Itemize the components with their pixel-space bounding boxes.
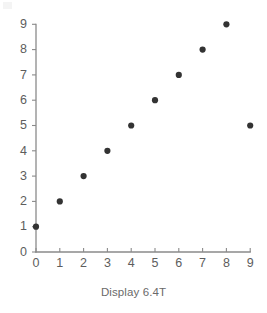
x-axis-tick-label: 2 bbox=[80, 256, 87, 270]
y-axis-tick-label: 0 bbox=[20, 245, 27, 259]
data-point bbox=[247, 122, 253, 128]
data-point bbox=[200, 47, 206, 53]
data-point bbox=[81, 173, 87, 179]
x-axis-group: 0123456789 bbox=[33, 248, 254, 270]
y-axis-group: 0123456789 bbox=[20, 17, 36, 259]
figure-caption: Display 6.4T bbox=[0, 286, 267, 298]
x-axis-tick-label: 0 bbox=[33, 256, 40, 270]
y-axis-tick-label: 7 bbox=[20, 68, 27, 82]
x-axis-tick-label: 7 bbox=[199, 256, 206, 270]
data-point bbox=[152, 97, 158, 103]
data-point bbox=[128, 122, 134, 128]
scatter-plot-figure: 0123456789 0123456789 Display 6.4T bbox=[0, 0, 267, 313]
x-axis-tick-label: 4 bbox=[128, 256, 135, 270]
x-axis-tick-label: 9 bbox=[247, 256, 254, 270]
data-point bbox=[57, 198, 63, 204]
y-axis-tick-label: 4 bbox=[20, 144, 27, 158]
data-points-group bbox=[33, 21, 253, 230]
x-axis-tick-label: 3 bbox=[104, 256, 111, 270]
y-axis-tick-label: 1 bbox=[20, 219, 27, 233]
data-point bbox=[104, 148, 110, 154]
data-point bbox=[223, 21, 229, 27]
x-axis-tick-label: 1 bbox=[56, 256, 63, 270]
data-point bbox=[176, 72, 182, 78]
x-axis-tick-label: 8 bbox=[223, 256, 230, 270]
y-axis-tick-label: 6 bbox=[20, 93, 27, 107]
y-axis-tick-label: 9 bbox=[20, 17, 27, 31]
plot-canvas: 0123456789 0123456789 bbox=[0, 0, 267, 313]
scan-artifact bbox=[3, 2, 12, 9]
data-point bbox=[33, 224, 39, 230]
y-axis-tick-label: 8 bbox=[20, 42, 27, 56]
x-axis-tick-label: 5 bbox=[152, 256, 159, 270]
y-axis-tick-label: 2 bbox=[20, 194, 27, 208]
x-axis-tick-label: 6 bbox=[175, 256, 182, 270]
y-axis-tick-label: 3 bbox=[20, 169, 27, 183]
y-axis-tick-label: 5 bbox=[20, 118, 27, 132]
